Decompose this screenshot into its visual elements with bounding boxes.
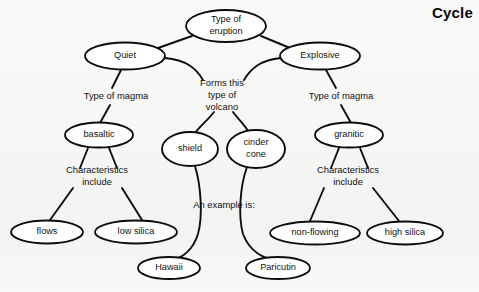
node-explosive[interactable]: Explosive [280,43,360,70]
node-type-of-eruption[interactable]: Type of eruption [186,10,266,42]
node-label-shield: shield [178,143,202,153]
node-label-flows: flows [37,226,58,236]
edge-characteristics-right-high-silica [373,188,399,221]
node-flows[interactable]: flows [11,221,83,244]
node-label-low-silica: low silica [118,226,156,236]
link-label-type-of-magma-right: Type of magma [309,90,374,101]
node-granitic[interactable]: granitic [315,123,383,148]
link-label-characteristics-include-left: Characteristics include [66,164,128,187]
node-hawaii[interactable]: Hawaii [138,257,200,279]
node-label-hawaii: Hawaii [155,262,183,272]
link-label-characteristics-right-line2: include [333,176,363,187]
link-label-an-example-is: An example is: [193,199,255,210]
edge-characteristics-left-low-silica [122,188,142,220]
link-label-characteristics-include-right: Characteristics include [317,164,379,187]
edge-forms-shield [195,112,214,133]
node-cinder-cone[interactable]: cinder cone [227,130,285,168]
node-non-flowing[interactable]: non-flowing [270,222,360,245]
link-label-forms-line1: Forms this [200,77,244,88]
edge-forms-cinder-cone [233,112,248,131]
edge-type-of-magma-right-granitic [341,105,351,123]
edge-quiet-forms [165,58,203,80]
node-high-silica[interactable]: high silica [367,222,443,245]
edge-explosive-forms [244,58,281,80]
node-label-high-silica: high silica [385,227,426,237]
edge-shield-hawaii [174,166,201,259]
node-label-cinder-cone-line2: cone [246,149,266,159]
node-label-type-of-eruption-line1: Type of [211,14,242,24]
edge-explosive-type-of-magma-right [326,70,336,88]
edge-eruption-quiet [158,36,192,48]
edge-eruption-explosive [261,36,290,48]
edge-characteristics-right-non-flowing [310,188,324,221]
link-label-characteristics-right-line1: Characteristics [317,164,379,175]
node-shield[interactable]: shield [162,132,218,166]
concept-map-page: Type of eruption Quiet Explosive basalti… [0,0,479,292]
node-label-paricutin: Paricutin [260,262,296,272]
node-label-explosive: Explosive [300,50,339,60]
link-label-forms-this-type-of-volcano: Forms this type of volcano [200,77,244,112]
edge-characteristics-left-flows [50,188,73,220]
edge-type-of-magma-left-basaltic [100,105,110,123]
link-label-characteristics-left-line2: include [82,176,112,187]
node-label-basaltic: basaltic [83,129,115,139]
node-label-quiet: Quiet [114,50,136,60]
link-label-forms-line3: volcano [206,101,238,112]
link-label-characteristics-left-line1: Characteristics [66,164,128,175]
node-label-type-of-eruption-line2: eruption [209,26,242,36]
volcano-concept-map: Type of eruption Quiet Explosive basalti… [0,0,479,292]
edge-quiet-type-of-magma-left [112,70,121,88]
node-label-cinder-cone-line1: cinder [243,137,268,147]
node-basaltic[interactable]: basaltic [65,123,133,148]
edge-cinder-cone-paricutin [240,167,272,259]
link-label-forms-line2: type of [208,89,237,100]
node-low-silica[interactable]: low silica [95,221,177,244]
node-label-granitic: granitic [334,129,364,139]
link-label-type-of-magma-left: Type of magma [84,90,149,101]
node-paricutin[interactable]: Paricutin [246,257,310,279]
node-label-non-flowing: non-flowing [292,227,339,237]
page-title: Cycle [432,4,473,21]
node-quiet[interactable]: Quiet [85,43,165,70]
node-layer: Type of eruption Quiet Explosive basalti… [11,10,443,279]
